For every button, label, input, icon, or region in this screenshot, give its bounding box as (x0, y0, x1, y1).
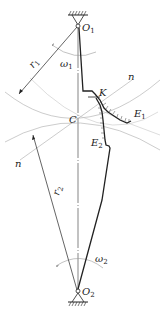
addendum-arc-2 (100, 110, 160, 135)
label-e2: E2 (90, 137, 103, 150)
label-k: K (98, 87, 107, 98)
label-o2: O2 (82, 286, 95, 299)
label-c: C (69, 114, 77, 125)
label-n-top: n (128, 71, 134, 82)
label-r2: r2 (50, 185, 65, 197)
label-n-left: n (15, 158, 21, 169)
omega1-arc (52, 45, 96, 56)
label-r1: r1 (26, 56, 42, 71)
r2-line (33, 135, 77, 290)
label-o1: O1 (82, 22, 95, 35)
label-e1: E1 (133, 108, 146, 121)
gear-diagram: O1 O2 ω1 ω2 r1 r2 C K E1 E2 n n (0, 0, 164, 312)
label-omega1: ω1 (60, 58, 73, 71)
pitch-circle-2 (5, 123, 160, 150)
profile-e1 (79, 28, 131, 123)
